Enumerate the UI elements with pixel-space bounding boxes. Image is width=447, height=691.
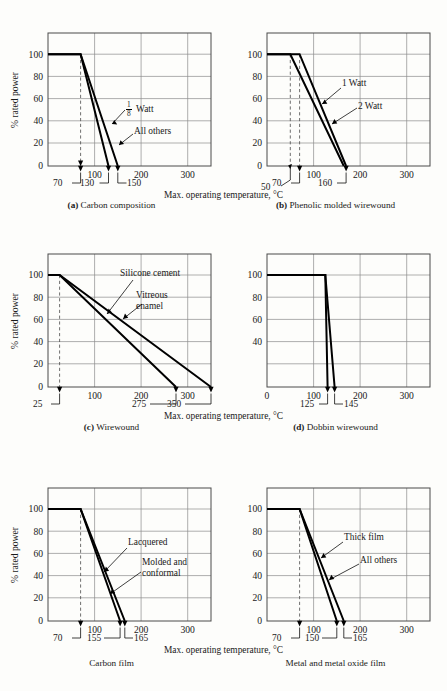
ytick-c-0: 0	[38, 381, 43, 392]
ytick-a-100: 100	[29, 49, 44, 60]
ytick-b-20: 20	[252, 137, 262, 148]
series-label-e-molded-conformal: Molded and conformal	[142, 557, 187, 578]
shared-xaxis-label-row2: Max. operating temperature, °C	[0, 411, 447, 421]
gridlines-f	[267, 488, 430, 621]
ytick-b-0: 0	[257, 160, 262, 171]
endpoint-label-c-275: 275	[132, 399, 146, 409]
breakpoint-markers-b	[297, 166, 349, 172]
breakpoint-label-b-70: 70	[272, 178, 281, 188]
endpoint-label-f-165: 165	[353, 633, 367, 643]
ytick-b-100: 100	[248, 49, 263, 60]
caption-a-text: Carbon composition	[81, 200, 156, 210]
chart-e-carbon-film: 100 80 60 40 20 0 % rated power 100 200 …	[0, 462, 223, 691]
caption-a: (a) Carbon composition	[0, 200, 223, 210]
caption-b-prefix: (b)	[276, 200, 287, 210]
gridlines-b	[267, 33, 430, 166]
ytick-e-100: 100	[29, 503, 44, 514]
caption-a-prefix: (a)	[68, 200, 79, 210]
breakpoint-label-c-25: 25	[33, 399, 42, 409]
series-label-c-vitreous-enamel: Vitreous enamel	[136, 290, 168, 311]
chart-row-3: 100 80 60 40 20 0 % rated power 100 200 …	[0, 462, 447, 691]
caption-f-text: Metal and metal oxide film	[285, 658, 385, 668]
caption-d: (d) Dobbin wirewound	[224, 422, 447, 432]
caption-d-prefix: (d)	[293, 422, 304, 432]
ytick-a-20: 20	[33, 137, 43, 148]
endpoint-label-d-145: 145	[344, 399, 358, 409]
ytick-e-80: 80	[33, 526, 43, 537]
chart-f-metal-oxide-film: 100 80 60 40 20 0 100 200 300 70	[224, 462, 447, 691]
ytick-c-20: 20	[33, 358, 43, 369]
yaxis-title-c: % rated power	[9, 292, 20, 349]
caption-b: (b) Phenolic molded wirewound	[224, 200, 447, 210]
ytick-d-60: 60	[252, 314, 262, 325]
caption-c: (c) Wirewound	[0, 422, 223, 432]
series-label-f-thick-film: Thick film	[344, 532, 384, 542]
ytick-a-60: 60	[33, 93, 43, 104]
ytick-d-80: 80	[252, 292, 262, 303]
caption-d-text: Dobbin wirewound	[307, 422, 378, 432]
chart-row-1: 100 80 60 40 20 0 % rated power 100 200 …	[0, 0, 447, 215]
ytick-c-40: 40	[33, 336, 43, 347]
ytick-d-40: 40	[252, 336, 262, 347]
gridlines-d	[267, 254, 430, 387]
ytick-f-40: 40	[252, 570, 262, 581]
series-label-e-line1: Molded and	[142, 557, 187, 568]
series-label-a-eighth-watt: 1 8 Watt	[126, 101, 154, 118]
ytick-c-60: 60	[33, 314, 43, 325]
series-label-b-1-watt: 1 Watt	[342, 78, 366, 88]
ytick-e-40: 40	[33, 570, 43, 581]
ytick-c-100: 100	[29, 269, 44, 280]
series-label-c-silicone-cement: Silicone cement	[120, 268, 180, 278]
ytick-e-0: 0	[38, 615, 43, 626]
caption-c-prefix: (c)	[84, 422, 94, 432]
series-label-f-all-others: All others	[360, 555, 397, 565]
endpoint-label-f-150: 150	[305, 633, 319, 643]
breakpoint-markers-e	[78, 621, 127, 627]
caption-e: Carbon film	[0, 658, 223, 668]
series-label-a-watt-suffix: Watt	[134, 104, 153, 114]
shared-xaxis-label-row1: Max. operating temperature, °C	[0, 190, 447, 200]
caption-e-text: Carbon film	[89, 658, 134, 668]
ytick-b-80: 80	[252, 71, 262, 82]
series-label-c-line2: enamel	[136, 301, 168, 312]
ytick-e-60: 60	[33, 548, 43, 559]
breakpoint-label-a-70: 70	[53, 178, 62, 188]
ytick-e-20: 20	[33, 592, 43, 603]
endpoint-label-d-125: 125	[300, 399, 314, 409]
chart-a-carbon-composition: 100 80 60 40 20 0 % rated power 100 200 …	[0, 0, 223, 215]
ytick-a-80: 80	[33, 71, 43, 82]
series-label-e-lacquered: Lacquered	[128, 537, 168, 547]
endpoint-label-b-160: 160	[318, 178, 332, 188]
ytick-f-100: 100	[248, 503, 263, 514]
endpoint-label-c-350: 350	[167, 399, 181, 409]
ytick-a-40: 40	[33, 115, 43, 126]
ytick-f-20: 20	[252, 592, 262, 603]
chart-b-phenolic-molded-wirewound: 100 80 60 40 20 0 100 200 300 50	[224, 0, 447, 215]
fraction-denominator: 8	[126, 110, 132, 118]
gridlines-e	[48, 488, 211, 621]
breakpoint-markers-d	[325, 387, 337, 393]
ytick-a-0: 0	[38, 160, 43, 171]
breakpoint-markers-f	[297, 621, 346, 627]
series-label-a-all-others: All others	[134, 126, 171, 136]
ytick-b-60: 60	[252, 93, 262, 104]
series-label-c-line1: Vitreous	[136, 290, 168, 301]
breakpoint-label-e-70: 70	[53, 633, 62, 643]
chart-row-2: 100 80 60 40 20 0 % rated power 100 200 …	[0, 232, 447, 447]
ytick-c-80: 80	[33, 292, 43, 303]
endpoint-label-a-130: 130	[80, 178, 94, 188]
ytick-b-40: 40	[252, 115, 262, 126]
resistor-derating-figure: 100 80 60 40 20 0 % rated power 100 200 …	[0, 0, 447, 691]
endpoint-label-a-150: 150	[127, 178, 141, 188]
series-label-e-line2: conformal	[142, 568, 187, 579]
ytick-f-0: 0	[257, 615, 262, 626]
endpoint-label-e-165: 165	[134, 633, 148, 643]
ytick-f-60: 60	[252, 548, 262, 559]
endpoint-label-e-155: 155	[87, 633, 101, 643]
breakpoint-label-f-70: 70	[272, 633, 281, 643]
yaxis-title-e: % rated power	[9, 526, 20, 583]
series-label-b-2-watt: 2 Watt	[358, 101, 382, 111]
caption-f: Metal and metal oxide film	[224, 658, 447, 668]
yaxis-title-a: % rated power	[9, 71, 20, 128]
caption-b-text: Phenolic molded wirewound	[289, 200, 395, 210]
